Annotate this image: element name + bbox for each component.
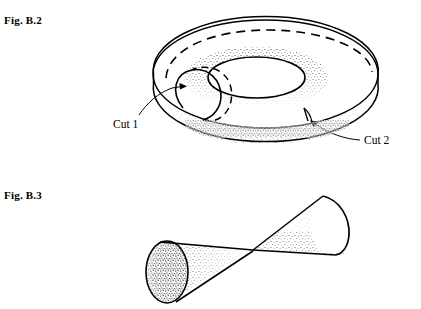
torus-outer-rim xyxy=(153,20,378,128)
torus-outer-silhouette xyxy=(153,16,378,141)
torus-cut-2-section xyxy=(304,108,312,122)
right-cone-outline xyxy=(253,196,349,255)
torus-cut-1-meridian-section xyxy=(176,67,232,121)
torus-bottom-edge-accent xyxy=(185,120,350,138)
left-cone-outline xyxy=(146,241,253,303)
cut-1-leader-line xyxy=(139,83,187,115)
left-cone-surface-shading xyxy=(140,235,260,309)
torus-inner-hole xyxy=(208,57,305,98)
cut-2-label: Cut 2 xyxy=(364,134,389,146)
figure-b2-torus-drawing xyxy=(0,0,421,309)
torus-lower-band-shading xyxy=(150,90,390,155)
left-cone-base-shading xyxy=(144,239,190,307)
right-cone-surface-shading xyxy=(250,190,355,260)
figure-b3-double-cone-drawing xyxy=(0,0,421,309)
cut-2-leader-line xyxy=(310,121,360,141)
cut-1-label: Cut 1 xyxy=(113,118,138,130)
torus-hidden-ridge-dashed xyxy=(166,30,372,78)
figure-page: Fig. B.2 Fig. B.3 Cut 1 Cut 2 xyxy=(0,0,421,309)
figure-b3-caption: Fig. B.3 xyxy=(4,189,42,201)
torus-inner-funnel-shading xyxy=(185,47,329,109)
figure-b2-caption: Fig. B.2 xyxy=(4,14,42,26)
